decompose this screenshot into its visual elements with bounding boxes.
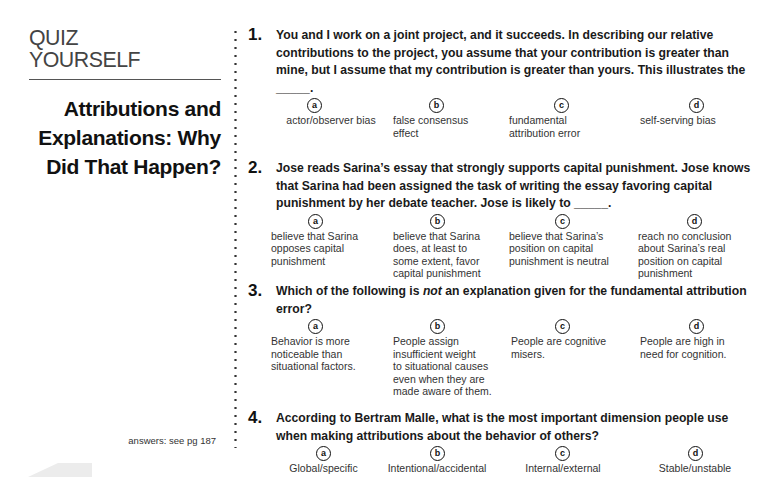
quiz-title-line2: YOURSELF xyxy=(29,49,140,71)
option-text: Internal/external xyxy=(513,462,613,475)
option-text: Behavior is more noticeable than situati… xyxy=(271,335,391,373)
question-prompt: Which of the following is not an explana… xyxy=(276,283,758,318)
option-letter-d-icon: d xyxy=(689,98,704,113)
option-letter-a-icon: a xyxy=(307,98,322,113)
option-letter-a-icon: a xyxy=(316,446,331,461)
option-letter-c-icon: c xyxy=(555,319,570,334)
option-letter-b-icon: b xyxy=(430,446,445,461)
question-prompt: Jose reads Sarina’s essay that strongly … xyxy=(276,160,758,213)
option-letter-d-icon: d xyxy=(688,446,703,461)
question-number: 2. xyxy=(248,159,262,177)
question-prompt-emphasis: not xyxy=(423,284,442,298)
option-text: People are cognitive misers. xyxy=(511,335,636,360)
question-1: 1. You and I work on a joint project, an… xyxy=(248,27,758,155)
question-4: 4. According to Bertram Malle, what is t… xyxy=(248,410,758,477)
answers-reference: answers: see pg 187 xyxy=(128,435,216,446)
question-3: 3. Which of the following is not an expl… xyxy=(248,283,758,405)
section-title-line1: Attributions and xyxy=(21,94,221,123)
section-title: Attributions and Explanations: Why Did T… xyxy=(21,94,221,181)
question-list: 1. You and I work on a joint project, an… xyxy=(248,27,758,477)
option-text: believe that Sarina does, at least to so… xyxy=(393,230,513,280)
option-text: People assign insufficient weight to sit… xyxy=(393,335,513,398)
option-text: believe that Sarina opposes capital puni… xyxy=(271,230,391,268)
section-title-line2: Explanations: Why xyxy=(21,123,221,152)
option-letter-a-icon: a xyxy=(308,319,323,334)
question-number: 1. xyxy=(248,26,262,44)
option-letter-c-icon: c xyxy=(554,98,569,113)
section-title-line3: Did That Happen? xyxy=(21,152,221,181)
option-text: fundamental attribution error xyxy=(509,114,629,139)
option-text: reach no conclusion about Sarina’s real … xyxy=(638,230,763,280)
dotted-divider xyxy=(234,28,237,448)
option-text: Global/specific xyxy=(270,462,377,475)
title-divider xyxy=(29,79,221,80)
option-text: actor/observer bias xyxy=(271,114,391,127)
option-letter-d-icon: d xyxy=(687,214,702,229)
question-prompt-start: Which of the following is xyxy=(276,284,423,298)
option-text: Stable/unstable xyxy=(635,462,755,475)
option-text: People are high in need for cognition. xyxy=(640,335,765,360)
option-text: Intentional/accidental xyxy=(377,462,497,475)
option-letter-b-icon: b xyxy=(430,319,445,334)
quiz-yourself-heading: QUIZ YOURSELF xyxy=(29,27,140,71)
question-prompt: According to Bertram Malle, what is the … xyxy=(276,410,758,445)
option-text: self-serving bias xyxy=(640,114,750,127)
question-prompt: You and I work on a joint project, and i… xyxy=(276,27,758,97)
decorative-corner-shape xyxy=(28,463,92,477)
option-letter-b-icon: b xyxy=(429,98,444,113)
option-letter-a-icon: a xyxy=(308,214,323,229)
quiz-title-line1: QUIZ xyxy=(29,27,140,49)
question-number: 3. xyxy=(248,282,262,300)
question-number: 4. xyxy=(248,409,262,427)
option-letter-c-icon: c xyxy=(555,446,570,461)
option-text: believe that Sarina’s position on capita… xyxy=(509,230,634,268)
option-letter-d-icon: d xyxy=(689,319,704,334)
option-letter-c-icon: c xyxy=(555,214,570,229)
option-letter-b-icon: b xyxy=(430,214,445,229)
option-text: false consensus effect xyxy=(393,114,513,139)
question-2: 2. Jose reads Sarina’s essay that strong… xyxy=(248,160,758,278)
quiz-sidebar: QUIZ YOURSELF Attributions and Explanati… xyxy=(0,0,236,477)
